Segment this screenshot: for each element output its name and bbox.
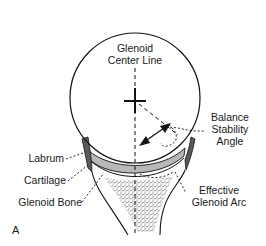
label-cartilage: Cartilage: [14, 174, 66, 186]
leader-cartilage: [68, 165, 88, 181]
label-glenoid-center-line: Glenoid Center Line: [104, 42, 166, 66]
labrum-right: [185, 137, 195, 170]
arrow-head-lower: [139, 136, 150, 146]
leader-effective-arc: [175, 172, 186, 193]
label-labrum: Labrum: [18, 152, 64, 164]
label-glenoid-bone: Glenoid Bone: [8, 196, 82, 208]
label-effective-glenoid-arc: Effective Glenoid Arc: [188, 184, 250, 208]
label-balance-stability-angle: Balance Stability Angle: [206, 111, 254, 147]
glenoid-bone-stipple: [104, 176, 173, 232]
leader-balance-stability: [170, 128, 205, 132]
effective-glenoid-arc-line: [140, 172, 173, 178]
glenoid-diagram: Glenoid Center Line Balance Stability An…: [0, 0, 266, 246]
balance-stability-line: [139, 104, 178, 135]
panel-letter: A: [12, 224, 19, 236]
leader-labrum: [66, 153, 83, 159]
